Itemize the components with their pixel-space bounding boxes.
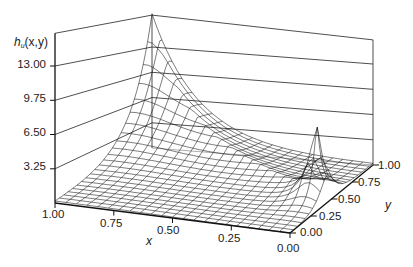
surface-plot [0, 0, 413, 267]
z-tick-label: 9.75 [6, 92, 46, 104]
z-tick-label: 6.50 [6, 126, 46, 138]
z-tick-label: 13.00 [6, 58, 46, 70]
x-tick-label: 0.50 [157, 224, 179, 236]
z-tick-label: 3.25 [6, 160, 46, 172]
y-tick-label: 0.00 [300, 226, 322, 238]
x-axis-name: x [146, 234, 152, 248]
x-tick-label: 0.75 [100, 217, 122, 229]
y-axis-name: y [385, 198, 391, 212]
z-label-args: (x,y) [25, 35, 48, 49]
y-tick-label: 0.50 [338, 193, 360, 205]
z-axis-label: hu(x,y) [14, 35, 48, 49]
y-tick-label: 0.25 [319, 210, 341, 222]
z-label-main: h [14, 35, 21, 49]
surface-mesh [55, 14, 373, 233]
x-tick-label: 0.00 [277, 242, 299, 254]
y-tick-label: 1.00 [378, 159, 400, 171]
x-tick-label: 1.00 [42, 208, 64, 220]
x-tick-label: 0.25 [218, 232, 240, 244]
y-tick-label: 0.75 [358, 176, 380, 188]
